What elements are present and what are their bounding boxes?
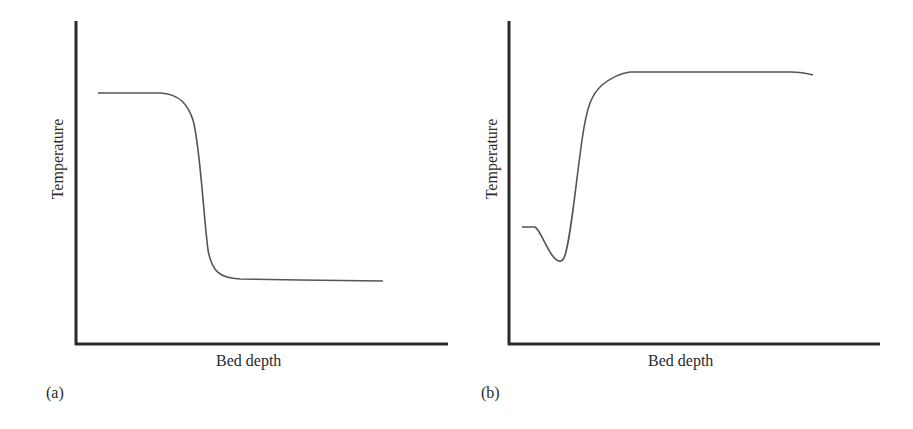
panel-a-x-axis-label: Bed depth xyxy=(216,352,281,370)
figure-canvas xyxy=(0,0,913,429)
panel-b-x-axis-label: Bed depth xyxy=(648,352,713,370)
panel-b-y-axis-label: Temperature xyxy=(483,115,501,203)
panel-a-axes xyxy=(75,21,448,345)
panel-b-curve xyxy=(522,72,813,261)
panel-a-y-axis-label: Temperature xyxy=(49,115,67,203)
panel-b-axes xyxy=(508,21,880,345)
panel-a-curve xyxy=(98,93,383,281)
panel-a-label: (a) xyxy=(46,384,64,402)
panel-b-label: (b) xyxy=(481,384,500,402)
